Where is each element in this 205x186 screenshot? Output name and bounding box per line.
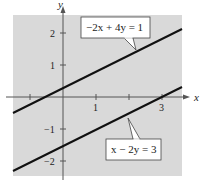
x-tick-label-3: 3 <box>159 102 164 113</box>
y-tick-label-2: 2 <box>50 28 55 39</box>
x-axis-label: x <box>193 91 199 103</box>
chart: x y 1 3 2 1 −1 −2 −2x + 4y = 1 x − 2y = … <box>0 0 205 186</box>
y-tick-label-1: 1 <box>50 60 55 71</box>
x-axis-arrow-icon <box>183 95 190 100</box>
eq2-label: x − 2y = 3 <box>111 143 157 155</box>
y-tick-label-minus1: −1 <box>44 124 55 135</box>
eq1-label: −2x + 4y = 1 <box>86 21 143 33</box>
y-axis-label: y <box>57 0 63 10</box>
x-tick-label-1: 1 <box>93 102 98 113</box>
y-tick-label-minus2: −2 <box>44 156 55 167</box>
